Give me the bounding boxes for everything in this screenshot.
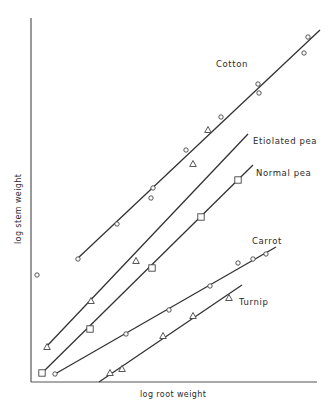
data-point-normal-pea <box>149 265 155 271</box>
data-point-cotton <box>256 82 260 86</box>
label-carrot: Carrot <box>252 236 282 246</box>
data-point-carrot <box>53 372 57 376</box>
data-point-cotton <box>306 35 310 39</box>
data-point-carrot <box>251 257 255 261</box>
fit-line-etiolated-pea <box>47 134 248 346</box>
label-cotton: Cotton <box>216 59 248 69</box>
data-point-cotton <box>76 257 80 261</box>
data-point-normal-pea <box>198 214 204 220</box>
label-turnip: Turnip <box>238 297 268 307</box>
data-point-etiolated-pea <box>133 258 140 264</box>
data-point-cotton <box>149 196 153 200</box>
data-point-cotton <box>115 222 119 226</box>
data-point-carrot <box>124 332 128 336</box>
data-point-cotton <box>151 186 155 190</box>
fit-line-normal-pea <box>42 165 253 373</box>
data-point-etiolated-pea <box>88 298 95 304</box>
x-axis-label: log root weight <box>140 390 206 399</box>
chart-canvas: Cotton Etiolated pea Normal pea Carrot T… <box>0 0 336 412</box>
data-point-cotton <box>257 91 261 95</box>
y-axis-label: log stem weight <box>14 174 23 244</box>
data-point-carrot <box>236 261 240 265</box>
data-point-cotton <box>302 51 306 55</box>
data-point-turnip <box>190 313 197 319</box>
label-etiolated-pea: Etiolated pea <box>253 136 317 146</box>
data-point-normal-pea <box>87 326 93 332</box>
data-point-outlier <box>35 273 39 277</box>
data-point-normal-pea <box>235 177 241 183</box>
data-point-carrot <box>208 284 212 288</box>
data-point-carrot <box>264 252 268 256</box>
fit-line-carrot <box>55 247 276 374</box>
data-point-etiolated-pea <box>205 127 212 133</box>
data-point-carrot <box>167 308 171 312</box>
data-point-cotton <box>219 115 223 119</box>
data-point-normal-pea <box>39 370 45 376</box>
series-layer <box>35 30 320 382</box>
data-point-cotton <box>184 148 188 152</box>
label-normal-pea: Normal pea <box>256 168 311 178</box>
data-point-etiolated-pea <box>190 161 197 167</box>
data-point-turnip <box>160 333 167 339</box>
